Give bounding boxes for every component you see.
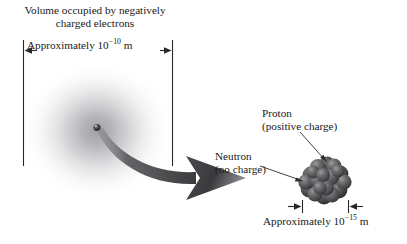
atom-dimension-unit: m (121, 39, 133, 51)
electron-cloud-caption: Volume occupied by negatively charged el… (0, 4, 190, 30)
nucleus-dimension-unit: m (357, 215, 369, 227)
neutron-label-line-2: (no charge) (215, 163, 266, 175)
neutron-leader-arrow (260, 166, 304, 182)
nucleus-dimension-exponent: −15 (345, 213, 357, 222)
nucleus-dimension-label: Approximately 10−15 m (263, 215, 368, 228)
proton-label-line-2: (positive charge) (262, 120, 337, 132)
caption-line-1: Volume occupied by negatively (24, 4, 165, 16)
atom-dimension-prefix: Approximately 10 (27, 39, 109, 51)
atom-dimension-exponent: −10 (109, 37, 121, 46)
atom-dimension-label: Approximately 10−10 m (27, 39, 132, 52)
diagram-canvas (0, 0, 407, 244)
neutron-label-line-1: Neutron (215, 150, 252, 162)
proton-label-line-1: Proton (262, 107, 292, 119)
neutron-label: Neutron (no charge) (215, 150, 266, 176)
proton-label: Proton (positive charge) (262, 107, 337, 133)
caption-line-2: charged electrons (0, 17, 190, 30)
atomic-structure-diagram: Volume occupied by negatively charged el… (0, 0, 407, 244)
proton-leader-arrow (300, 132, 328, 163)
nucleus-cluster (298, 157, 351, 205)
nucleus-dimension-prefix: Approximately 10 (263, 215, 345, 227)
